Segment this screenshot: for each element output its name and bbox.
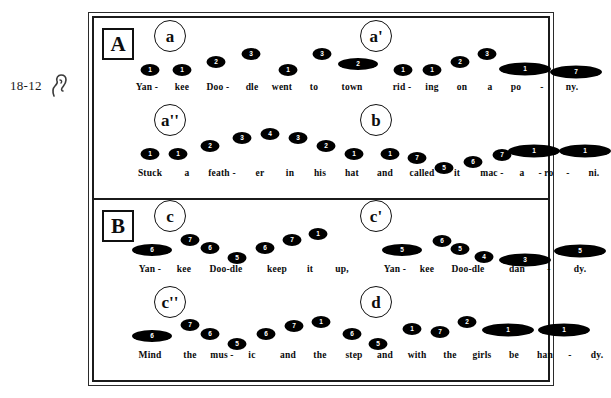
note-head: 5: [382, 244, 422, 256]
note-head: 2: [207, 56, 226, 68]
phrase-label-cpp: c'': [154, 286, 186, 318]
lyric-syllable: ni.: [589, 168, 600, 178]
lyric-syllable: girls: [473, 350, 492, 360]
lyric-row: Mindthemus -icandthestepandwiththegirlsb…: [102, 350, 542, 370]
lyric-syllable: Stuck: [138, 168, 162, 178]
phrase-label-b: b: [360, 104, 392, 136]
note-head: 3: [289, 132, 308, 144]
note-head: 6: [433, 235, 452, 247]
lyric-syllable: called: [410, 168, 435, 178]
lyric-syllable: went: [272, 82, 292, 92]
note-head: 7: [431, 326, 450, 338]
note-head: 1: [403, 323, 422, 335]
lyric-syllable: mac -: [480, 168, 503, 178]
note-head: 1: [381, 148, 400, 160]
lyric-syllable: dy.: [591, 350, 603, 360]
lyric-syllable: han: [537, 350, 553, 360]
phrase-label-d: d: [360, 286, 392, 318]
lyric-syllable: dan: [509, 264, 525, 274]
lyric-syllable: the: [443, 350, 456, 360]
margin-marker: 18-12: [10, 72, 70, 100]
note-head: 2: [201, 140, 220, 152]
lyric-syllable: po: [511, 82, 521, 92]
note-head: 3: [233, 132, 252, 144]
lyric-syllable: er: [256, 168, 265, 178]
note-head: 7: [181, 319, 200, 331]
note-head: 1: [279, 64, 298, 76]
lyric-syllable: kee: [175, 82, 189, 92]
note-head: 7: [550, 66, 602, 79]
lyric-syllable: ing: [425, 82, 438, 92]
note-row: c6765671c'565435: [102, 206, 542, 264]
lyric-syllable: up,: [335, 264, 349, 274]
staff-line: c6765671c'565435Yan -keeDoo-dlekeepitup,…: [102, 206, 542, 292]
staff-line: a''11234321b1756711Stuckafeath -erinhish…: [102, 110, 542, 196]
note-head: 5: [228, 252, 247, 264]
lyric-syllable: a: [488, 82, 493, 92]
lyric-row: Yan -keeDoo -dlewenttotownrid -ingonapo-…: [102, 82, 542, 102]
lyric-syllable: Doo-dle: [451, 264, 484, 274]
note-head: 5: [369, 338, 388, 350]
lyric-syllable: rid -: [393, 82, 412, 92]
lyric-syllable: Doo-dle: [209, 264, 242, 274]
note-head: 2: [338, 58, 378, 70]
lyric-syllable: dy.: [574, 264, 586, 274]
note-head: 3: [242, 48, 261, 60]
lyric-syllable: it: [307, 264, 313, 274]
lyric-syllable: Mind: [139, 350, 162, 360]
note-head: 1: [141, 64, 160, 76]
lyric-syllable: feath -: [208, 168, 236, 178]
lyric-syllable: dle: [246, 82, 259, 92]
lyric-syllable: on: [457, 82, 467, 92]
note-row: a1123132a'112317: [102, 24, 542, 82]
note-head: 3: [313, 48, 332, 60]
lyric-syllable: keep: [267, 264, 287, 274]
note-head: 6: [257, 328, 276, 340]
lyric-syllable: mus -: [210, 350, 233, 360]
lyric-syllable: the: [313, 350, 326, 360]
note-head: 1: [394, 64, 413, 76]
phrase-label-c: c: [154, 200, 186, 232]
section-a: A a1123132a'112317Yan -keeDoo -dlewentto…: [94, 18, 548, 198]
phrase-label-cp: c': [360, 200, 392, 232]
note-head: 6: [201, 328, 220, 340]
note-head: 4: [261, 128, 280, 140]
figure-number-label: 18-12: [10, 78, 42, 94]
ear-icon: [48, 72, 70, 100]
note-head: 2: [317, 140, 336, 152]
lyric-syllable: hat: [345, 168, 359, 178]
note-head: 7: [283, 234, 302, 246]
lyric-syllable: -: [540, 82, 543, 92]
figure-frame: A a1123132a'112317Yan -keeDoo -dlewentto…: [88, 12, 554, 386]
lyric-syllable: with: [408, 350, 427, 360]
lyric-row: Stuckafeath -erinhishatandcalleditmac -a…: [102, 168, 542, 188]
lyric-syllable: ny.: [566, 82, 578, 92]
phrase-label-ap: a': [360, 20, 392, 52]
lyric-syllable: in: [286, 168, 294, 178]
lyric-syllable: be: [509, 350, 519, 360]
lyric-syllable: -: [568, 350, 571, 360]
note-head: 1: [538, 324, 590, 337]
lyric-syllable: step: [345, 350, 362, 360]
note-head: 1: [423, 64, 442, 76]
lyric-syllable: and: [377, 168, 393, 178]
lyric-syllable: -: [547, 264, 550, 274]
lyric-syllable: kee: [420, 264, 434, 274]
note-head: 1: [312, 316, 331, 328]
note-head: 2: [451, 56, 470, 68]
lyric-syllable: ic: [248, 350, 255, 360]
note-row: c''676567165d17211: [102, 292, 542, 350]
note-head: 6: [464, 156, 483, 168]
note-head: 1: [345, 148, 364, 160]
note-head: 1: [559, 145, 611, 158]
note-head: 3: [478, 48, 497, 60]
note-head: 1: [173, 64, 192, 76]
lyric-syllable: Yan -: [384, 264, 406, 274]
lyric-syllable: Yan -: [136, 82, 158, 92]
lyric-syllable: Doo -: [207, 82, 230, 92]
staff-line: c''676567165d17211Mindthemus -icandthest…: [102, 292, 542, 378]
note-head: 1: [309, 228, 328, 240]
note-head: 1: [499, 63, 551, 76]
staff-line: a1123132a'112317Yan -keeDoo -dlewenttoto…: [102, 24, 542, 110]
note-head: 7: [285, 320, 304, 332]
